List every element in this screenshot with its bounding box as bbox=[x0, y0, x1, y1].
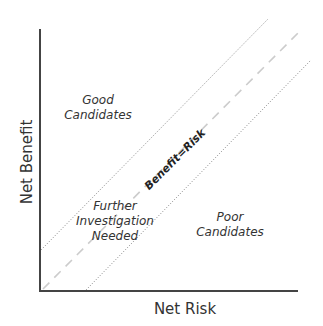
region-poor-candidates: Poor Candidates bbox=[190, 210, 270, 240]
region-further-investigation: Further Investigation Needed bbox=[70, 199, 160, 244]
region-good-line1: Good bbox=[58, 93, 138, 108]
region-further-line2: Investigation bbox=[70, 214, 160, 229]
region-good-line2: Candidates bbox=[58, 108, 138, 123]
region-good-candidates: Good Candidates bbox=[58, 93, 138, 123]
region-poor-line1: Poor bbox=[190, 210, 270, 225]
x-axis-title: Net Risk bbox=[130, 300, 240, 318]
region-further-line3: Needed bbox=[70, 229, 160, 244]
y-axis-title: Net Benefit bbox=[18, 117, 36, 207]
region-further-line1: Further bbox=[70, 199, 160, 214]
region-poor-line2: Candidates bbox=[190, 225, 270, 240]
risk-benefit-diagram: Net Benefit Net Risk Good Candidates Fur… bbox=[0, 0, 323, 326]
